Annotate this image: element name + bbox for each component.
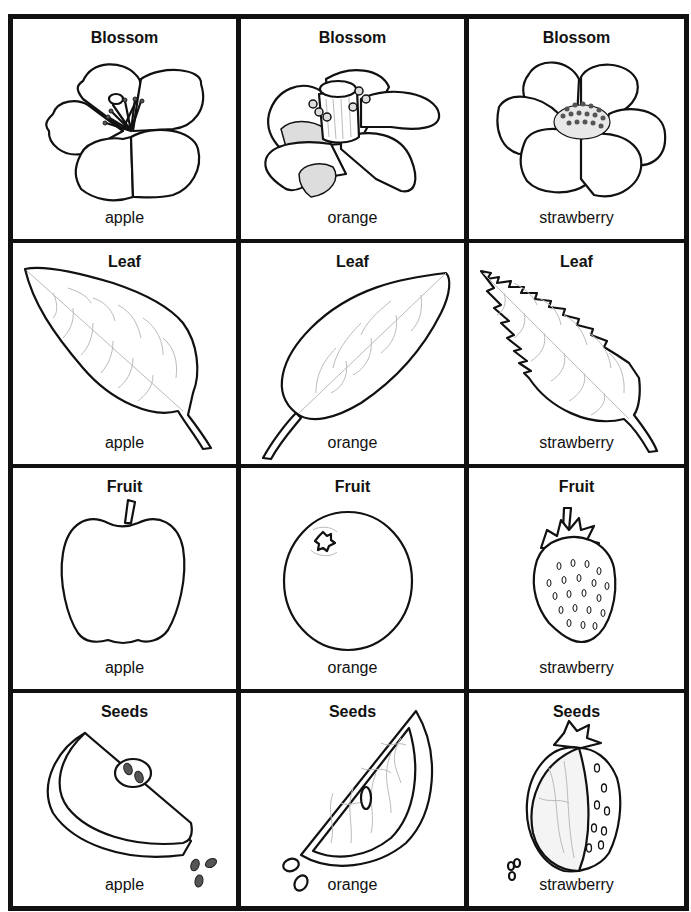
cell-orange-fruit: Fruit orange: [241, 468, 464, 689]
orange-seeds-icon: [241, 693, 464, 906]
cell-strawberry-blossom: Blossom strawberry: [469, 19, 684, 239]
cell-orange-blossom: Blossom orange: [241, 19, 464, 239]
orange-fruit-icon: [241, 468, 464, 689]
cell-label: strawberry: [469, 434, 684, 452]
cell-label: apple: [13, 434, 236, 452]
cell-label: orange: [241, 659, 464, 677]
strawberry-seeds-icon: [469, 693, 684, 906]
orange-leaf-icon: [241, 243, 464, 464]
cell-strawberry-seeds: Seeds strawberry: [469, 693, 684, 906]
strawberry-leaf-icon: [469, 243, 684, 464]
cell-label: apple: [13, 876, 236, 894]
strawberry-fruit-icon: [469, 468, 684, 689]
apple-leaf-icon: [13, 243, 236, 464]
orange-blossom-icon: [241, 19, 464, 239]
cell-label: apple: [13, 659, 236, 677]
cell-label: orange: [241, 876, 464, 894]
cell-strawberry-fruit: Fruit strawberry: [469, 468, 684, 689]
apple-seeds-icon: [13, 693, 236, 906]
cell-orange-seeds: Seeds orange: [241, 693, 464, 906]
cell-label: strawberry: [469, 876, 684, 894]
cell-label: strawberry: [469, 209, 684, 227]
strawberry-blossom-icon: [469, 19, 684, 239]
cell-apple-blossom: Blossom apple: [13, 19, 236, 239]
cell-apple-seeds: Seeds apple: [13, 693, 236, 906]
cell-label: apple: [13, 209, 236, 227]
cell-label: orange: [241, 434, 464, 452]
apple-fruit-icon: [13, 468, 236, 689]
cell-strawberry-leaf: Leaf strawberry: [469, 243, 684, 464]
cell-apple-fruit: Fruit apple: [13, 468, 236, 689]
plant-parts-grid: Blossom apple Blossom: [8, 14, 689, 911]
cell-label: strawberry: [469, 659, 684, 677]
cell-apple-leaf: Leaf apple: [13, 243, 236, 464]
cell-label: orange: [241, 209, 464, 227]
cell-orange-leaf: Leaf orange: [241, 243, 464, 464]
apple-blossom-icon: [13, 19, 236, 239]
